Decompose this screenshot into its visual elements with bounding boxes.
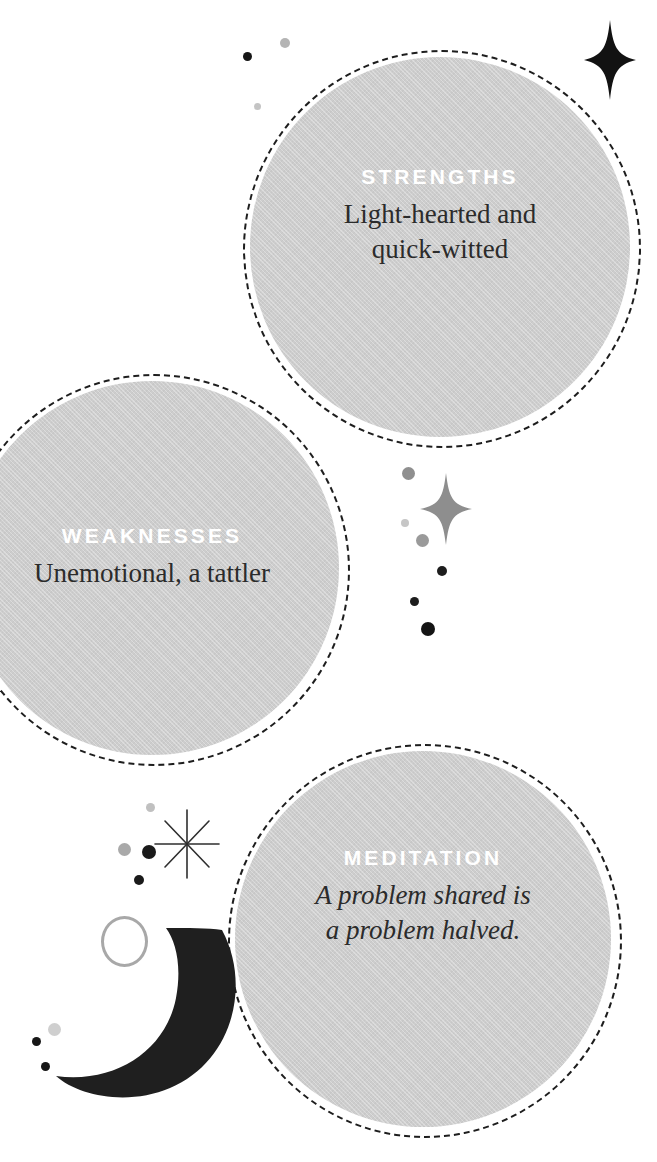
bubble-strengths-kicker: STRENGTHS xyxy=(277,165,603,188)
eight-point-burst-star-icon xyxy=(152,808,222,880)
crescent-moon-icon xyxy=(56,928,242,1100)
bubble-meditation-line-1: A problem shared is xyxy=(262,878,584,913)
bubble-weaknesses: WEAKNESSES Unemotional, a tattler xyxy=(0,374,346,762)
decorative-dot xyxy=(32,1037,41,1046)
bubble-weaknesses-text: WEAKNESSES Unemotional, a tattler xyxy=(0,524,346,591)
decorative-dot xyxy=(48,1023,61,1036)
decorative-dot xyxy=(410,597,419,606)
bubble-strengths-line-1: Light-hearted and xyxy=(277,197,603,232)
decorative-dot xyxy=(437,566,447,576)
decorative-dot xyxy=(280,38,290,48)
decorative-dot xyxy=(401,519,409,527)
zodiac-traits-page: STRENGTHS Light-hearted and quick-witted… xyxy=(0,0,657,1162)
decorative-dot xyxy=(421,622,435,636)
bubble-meditation-line-2: a problem halved. xyxy=(262,913,584,948)
decorative-dot xyxy=(243,52,252,61)
four-point-sparkle-star-icon xyxy=(420,473,472,545)
bubble-meditation-kicker: MEDITATION xyxy=(262,846,584,869)
decorative-dot xyxy=(146,803,155,812)
decorative-dot xyxy=(416,534,429,547)
four-point-sparkle-star-icon xyxy=(584,20,636,100)
bubble-weaknesses-kicker: WEAKNESSES xyxy=(0,524,328,547)
decorative-dot xyxy=(134,875,144,885)
bubble-meditation: MEDITATION A problem shared is a problem… xyxy=(228,744,618,1134)
bubble-weaknesses-line-1: Unemotional, a tattler xyxy=(0,556,328,591)
decorative-dot xyxy=(402,467,415,480)
bubble-strengths-line-2: quick-witted xyxy=(277,232,603,267)
decorative-dot xyxy=(41,1062,50,1071)
bubble-meditation-text: MEDITATION A problem shared is a problem… xyxy=(228,846,618,948)
bubble-strengths-text: STRENGTHS Light-hearted and quick-witted xyxy=(243,165,637,267)
decorative-dot xyxy=(118,843,131,856)
decorative-dot xyxy=(142,845,156,859)
decorative-dot xyxy=(254,103,261,110)
bubble-strengths: STRENGTHS Light-hearted and quick-witted xyxy=(243,50,637,444)
